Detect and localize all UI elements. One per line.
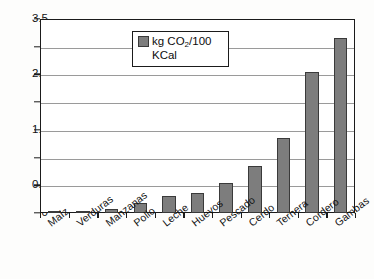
bar-chart: 00.511.522.533.5 MaízVerdurasManzanasPol… xyxy=(0,0,374,279)
legend-label-line2: KCal xyxy=(138,49,228,62)
bar xyxy=(305,72,319,213)
legend-label-part2: /100 xyxy=(189,35,211,47)
legend: kg CO2/100 KCal xyxy=(132,31,229,67)
x-tick-mark xyxy=(40,213,41,218)
legend-label-part1: kg CO xyxy=(152,35,185,47)
legend-label-subscript: 2 xyxy=(185,40,189,49)
bar xyxy=(277,138,291,213)
legend-swatch-icon xyxy=(138,36,149,47)
legend-label: kg CO2/100 xyxy=(152,35,211,49)
bar xyxy=(334,38,348,213)
